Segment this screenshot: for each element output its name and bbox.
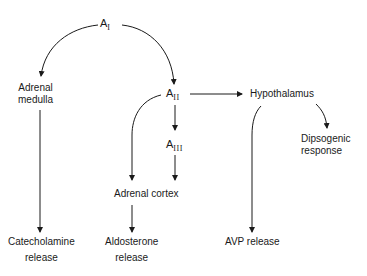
node-aldosterone-release: Aldosterone release bbox=[105, 236, 158, 264]
a3-sub: III bbox=[173, 144, 183, 153]
edge-hypothalamus-to-dipsogenic bbox=[316, 104, 327, 128]
a1-sub: I bbox=[107, 23, 110, 32]
edge-a1-to-a2 bbox=[122, 25, 174, 84]
edge-a2-to-adrenal-cortex bbox=[132, 95, 161, 180]
edge-hypothalamus-to-avp bbox=[252, 106, 261, 232]
node-angiotensin-iii: AIII bbox=[166, 138, 183, 155]
node-dipsogenic-response: Dipsogenic response bbox=[301, 133, 350, 157]
node-angiotensin-i: AI bbox=[100, 17, 111, 34]
edge-a1-to-adrenal-medulla bbox=[41, 25, 98, 76]
node-angiotensin-ii: AII bbox=[166, 87, 180, 104]
node-catecholamine-release: Catecholamine release bbox=[8, 236, 75, 264]
a2-sub: II bbox=[173, 93, 179, 102]
node-avp-release: AVP release bbox=[225, 236, 280, 248]
node-adrenal-cortex: Adrenal cortex bbox=[114, 188, 178, 200]
node-hypothalamus: Hypothalamus bbox=[250, 88, 314, 100]
node-adrenal-medulla: Adrenal medulla bbox=[18, 82, 53, 106]
